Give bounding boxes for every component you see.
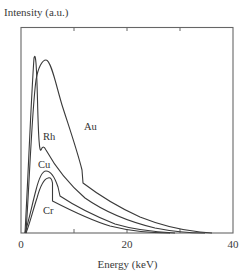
x-tick-40: 40 xyxy=(228,238,240,250)
x-tick-20: 20 xyxy=(122,238,134,250)
label-cu: Cu xyxy=(38,159,51,170)
x-tick-0: 0 xyxy=(18,238,24,250)
label-cr: Cr xyxy=(43,205,54,216)
spectrum-chart: 0 20 40 Au Rh Cu Cr xyxy=(0,0,251,278)
x-axis-label: Energy (keV) xyxy=(0,258,251,270)
label-au: Au xyxy=(84,121,98,132)
curve-au xyxy=(26,60,212,233)
curve-cu xyxy=(25,171,175,233)
label-rh: Rh xyxy=(43,131,56,142)
